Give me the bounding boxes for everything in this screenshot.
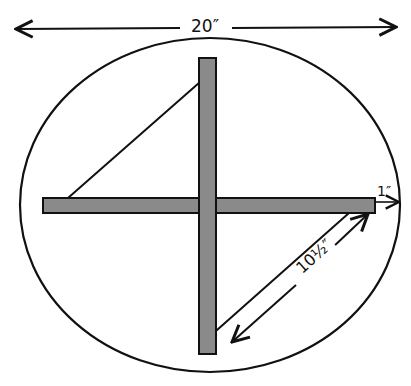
kite-diagram: 20″ 1″ 10½″: [0, 0, 411, 386]
overhang-dimension-label: 1″: [377, 184, 391, 198]
diagonal-dimension-lower-arrow: [232, 285, 296, 342]
width-dimension-label: 20″: [188, 18, 222, 35]
width-dimension-left-arrow: [16, 28, 180, 29]
diagram-canvas: [0, 0, 411, 386]
vertical-stick: [199, 58, 216, 354]
width-dimension-right-arrow: [232, 27, 396, 28]
